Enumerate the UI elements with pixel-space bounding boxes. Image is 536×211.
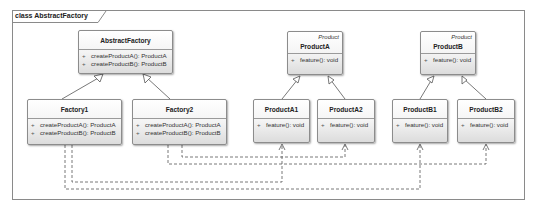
class-name: AbstractFactory — [100, 37, 151, 44]
class-factory2[interactable]: Factory2 +createProductA(): ProductA +cr… — [132, 99, 227, 145]
operation: +feature(): void — [321, 121, 371, 129]
class-factory1[interactable]: Factory1 +createProductA(): ProductA +cr… — [27, 99, 122, 145]
stereotype-label: Product — [288, 32, 342, 42]
generalization-factory1 — [62, 77, 100, 99]
class-product-b[interactable]: Product ProductB +feature(): void — [420, 31, 476, 75]
dependency-factory2-producta2 — [182, 145, 345, 157]
class-product-a2[interactable]: ProductA2 +feature(): void — [317, 99, 375, 143]
class-product-b1[interactable]: ProductB1 +feature(): void — [392, 99, 448, 143]
operation: +feature(): void — [461, 121, 511, 129]
class-name: Factory2 — [166, 106, 194, 113]
operation: +createProductA(): ProductA — [31, 121, 118, 129]
class-name: ProductA — [288, 42, 342, 52]
class-product-a1[interactable]: ProductA1 +feature(): void — [253, 99, 310, 143]
operation: +createProductA(): ProductA — [82, 52, 169, 60]
dependency-factory2-productb2 — [168, 145, 486, 164]
operation: +createProductB(): ProductB — [136, 129, 223, 137]
class-name: ProductB — [421, 42, 475, 52]
operation: +feature(): void — [291, 56, 339, 64]
generalization-factory2 — [146, 77, 170, 99]
class-product-a[interactable]: Product ProductA +feature(): void — [287, 31, 343, 75]
dependency-factory1-producta1 — [72, 145, 282, 182]
diagram-canvas: class AbstractFactory — [0, 0, 536, 211]
operation: +feature(): void — [257, 121, 306, 129]
operation: +createProductB(): ProductB — [31, 129, 118, 137]
class-name: ProductA2 — [329, 106, 362, 113]
class-name: ProductB1 — [403, 106, 436, 113]
operation: +feature(): void — [424, 56, 472, 64]
operation: +feature(): void — [396, 121, 444, 129]
class-name: Factory1 — [61, 106, 89, 113]
class-name: ProductB2 — [469, 106, 502, 113]
operation: +createProductA(): ProductA — [136, 121, 223, 129]
class-abstract-factory[interactable]: AbstractFactory +createProductA(): Produ… — [78, 30, 173, 74]
class-name: ProductA1 — [265, 106, 298, 113]
generalization-arrowhead — [94, 74, 103, 82]
stereotype-label: Product — [421, 32, 475, 42]
operation: +createProductB(): ProductB — [82, 60, 169, 68]
class-product-b2[interactable]: ProductB2 +feature(): void — [457, 99, 515, 143]
